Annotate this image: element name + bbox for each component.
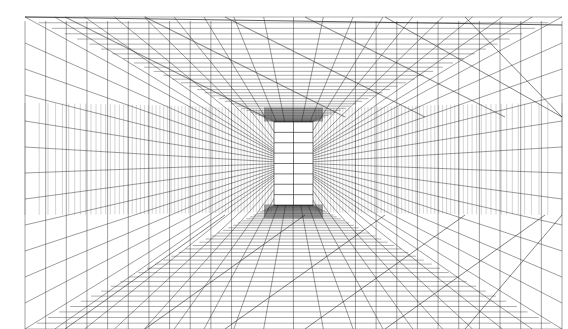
perspective-grid-drawing bbox=[0, 0, 568, 329]
perspective-grid-svg bbox=[0, 0, 568, 329]
